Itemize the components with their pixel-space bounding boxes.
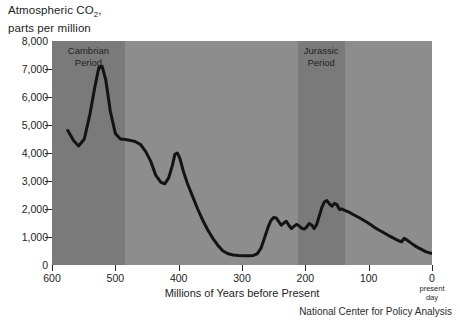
- y-tick-label-2000: 2,000: [4, 203, 48, 215]
- y-tick-mark-5000: [45, 125, 52, 126]
- y-tick-label-4000: 4,000: [4, 147, 48, 159]
- y-tick-label-3000: 3,000: [4, 175, 48, 187]
- x-tick-label-200: 200: [297, 272, 315, 284]
- chart-title-line-2: parts per million: [8, 21, 102, 36]
- y-tick-label-1000: 1,000: [4, 231, 48, 243]
- x-tick-label-100: 100: [360, 272, 378, 284]
- y-tick-label-0: 0: [4, 259, 48, 271]
- y-tick-mark-2000: [45, 209, 52, 210]
- co2-series-line: [52, 41, 432, 265]
- x-tick-label-400: 400: [170, 272, 188, 284]
- x-tick-label-0: 0: [429, 272, 435, 284]
- plot-area: Cambrian Period Jurassic Period: [52, 41, 432, 265]
- y-tick-mark-6000: [45, 97, 52, 98]
- x-tick-mark-0: [432, 265, 433, 271]
- y-tick-label-8000: 8,000: [4, 35, 48, 47]
- x-tick-label-600: 600: [43, 272, 61, 284]
- y-tick-mark-3000: [45, 181, 52, 182]
- y-tick-mark-7000: [45, 69, 52, 70]
- x-tick-label-500: 500: [107, 272, 125, 284]
- co2-history-chart: Atmospheric CO2, parts per million Cambr…: [0, 0, 460, 320]
- x-tick-label-300: 300: [233, 272, 251, 284]
- x-tick-mark-600: [52, 265, 53, 271]
- x-tick-mark-500: [115, 265, 116, 271]
- x-tick-mark-300: [242, 265, 243, 271]
- present-day-annotation: present day: [419, 285, 444, 302]
- y-tick-label-5000: 5,000: [4, 119, 48, 131]
- co2-series-path: [68, 66, 432, 256]
- chart-title-line-1: Atmospheric CO2,: [8, 3, 102, 21]
- y-tick-label-7000: 7,000: [4, 63, 48, 75]
- y-tick-label-6000: 6,000: [4, 91, 48, 103]
- chart-title-comma: ,: [98, 4, 101, 16]
- attribution-text: National Center for Policy Analysis: [299, 306, 452, 317]
- y-tick-mark-1000: [45, 237, 52, 238]
- x-axis-title: Millions of Years before Present: [52, 287, 432, 299]
- present-day-line-2: day: [419, 294, 444, 303]
- chart-title: Atmospheric CO2, parts per million: [8, 3, 102, 35]
- x-tick-mark-400: [179, 265, 180, 271]
- x-tick-mark-100: [369, 265, 370, 271]
- x-tick-mark-200: [305, 265, 306, 271]
- y-tick-mark-4000: [45, 153, 52, 154]
- chart-title-text: Atmospheric CO: [8, 4, 94, 16]
